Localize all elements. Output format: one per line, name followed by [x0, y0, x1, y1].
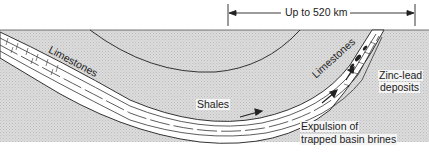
label-deposits-line2: deposits — [379, 82, 420, 93]
cross-section-diagram — [0, 0, 429, 154]
label-expulsion-line2: trapped basin brines — [300, 134, 397, 145]
measurement-label: Up to 520 km — [283, 7, 349, 18]
label-shales: Shales — [196, 99, 230, 110]
label-expulsion-line1: Expulsion of — [300, 121, 359, 132]
label-deposits-line1: Zinc-lead — [378, 70, 423, 81]
